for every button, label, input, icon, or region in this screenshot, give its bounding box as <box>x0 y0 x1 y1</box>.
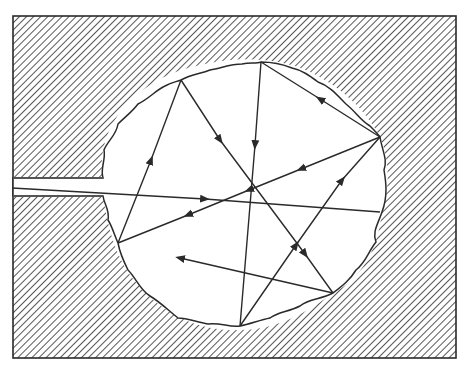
integrating-cavity-diagram <box>0 0 467 371</box>
